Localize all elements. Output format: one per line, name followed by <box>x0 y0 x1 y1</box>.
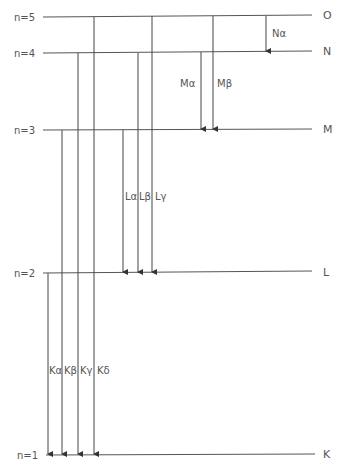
level-label-n4: n=4 <box>14 48 35 59</box>
principal-quantum-labels: n=5 n=4 n=3 n=2 n=1 <box>14 12 38 461</box>
shell-label-O: O <box>323 9 332 22</box>
level-label-n2: n=2 <box>14 268 35 279</box>
label-m-alpha: Mα <box>180 78 196 89</box>
label-l-alpha: Lα <box>125 191 138 202</box>
energy-levels <box>43 15 315 455</box>
level-n2 <box>43 271 312 273</box>
transition-arrows <box>48 16 266 454</box>
transition-labels: Kα Kβ Kγ Kδ Lα Lβ Lγ Mα Mβ Nα <box>49 28 286 376</box>
shell-labels: O N M L K <box>323 9 333 461</box>
label-l-gamma: Lγ <box>155 191 167 202</box>
level-n5 <box>43 15 312 17</box>
level-n4 <box>43 51 312 53</box>
level-label-n5: n=5 <box>14 12 35 23</box>
shell-label-N: N <box>323 45 331 58</box>
shell-label-K: K <box>323 448 331 461</box>
energy-level-diagram: n=5 n=4 n=3 n=2 n=1 O N M L K Kα Kβ Kγ K… <box>0 0 350 469</box>
level-label-n1: n=1 <box>17 450 38 461</box>
label-l-beta: Lβ <box>139 191 151 202</box>
label-k-alpha: Kα <box>49 365 63 376</box>
label-k-gamma: Kγ <box>80 365 93 376</box>
label-n-alpha: Nα <box>272 28 286 39</box>
level-n3 <box>43 129 312 130</box>
level-label-n3: n=3 <box>14 125 35 136</box>
shell-label-M: M <box>323 123 333 136</box>
shell-label-L: L <box>323 266 330 279</box>
label-k-delta: Kδ <box>97 365 110 376</box>
label-k-beta: Kβ <box>64 365 77 376</box>
label-m-beta: Mβ <box>217 78 232 89</box>
level-n1 <box>46 454 315 455</box>
